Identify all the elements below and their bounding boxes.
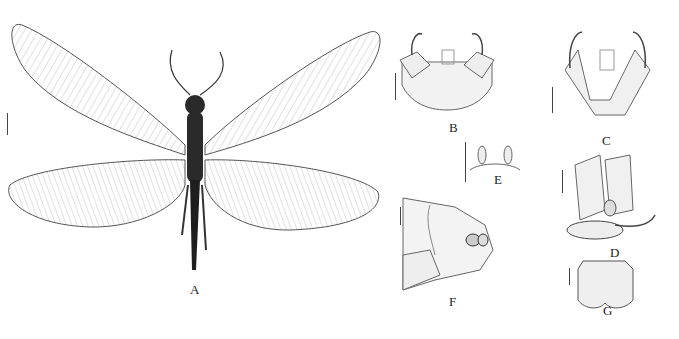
scale-bar [562, 170, 563, 193]
abdominal-tip-drawing [395, 195, 515, 295]
panel-label-f: F [449, 294, 456, 310]
scale-bar [465, 142, 466, 182]
scale-bar [7, 113, 8, 135]
plate-drawing [565, 255, 645, 310]
panel-label-g: G [603, 303, 612, 319]
panel-g: G [565, 255, 645, 330]
genitalia-dorsal-drawing [392, 30, 502, 120]
scale-bar [552, 87, 553, 113]
genitalia-lateral-drawing [555, 150, 665, 245]
scale-bar [395, 73, 396, 100]
panel-label-e: E [494, 172, 502, 188]
panel-c: C [550, 30, 665, 140]
scale-bar [400, 207, 401, 225]
scale-bar [569, 268, 570, 285]
panel-d: D [555, 150, 665, 260]
genitalia-ventral-drawing [550, 30, 665, 130]
panel-label-b: B [449, 120, 458, 136]
panel-b: B [392, 30, 502, 120]
panel-label-c: C [602, 133, 611, 149]
insect-illustration [0, 0, 390, 300]
panel-a: A [0, 0, 390, 300]
panel-label-a: A [190, 282, 199, 298]
panel-e: E [460, 140, 530, 195]
panel-f: F [395, 195, 515, 310]
